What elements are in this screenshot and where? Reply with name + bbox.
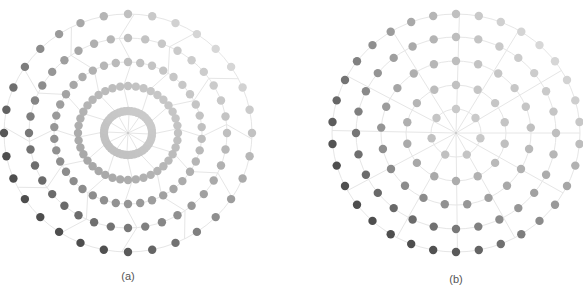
data-dot <box>497 18 505 26</box>
data-dot <box>463 200 471 208</box>
data-dot <box>441 150 449 158</box>
data-dot <box>535 217 543 225</box>
center-point <box>455 132 457 134</box>
data-dot <box>514 54 522 62</box>
data-dot <box>430 35 438 43</box>
data-dot <box>542 87 550 95</box>
data-dot <box>575 118 583 126</box>
data-dot <box>535 41 543 49</box>
data-dot <box>408 42 416 50</box>
data-dot <box>368 41 376 49</box>
data-dot <box>452 225 460 233</box>
data-dot <box>571 96 579 104</box>
data-dot <box>353 201 361 209</box>
spoke-gridline <box>456 70 561 133</box>
data-dot <box>374 189 382 197</box>
data-dot <box>377 123 385 131</box>
data-dot <box>430 172 438 180</box>
spoke-gridline <box>456 30 519 133</box>
data-dot <box>430 60 438 68</box>
data-dot <box>393 84 401 92</box>
data-dot <box>495 42 503 50</box>
data-dot <box>353 57 361 65</box>
data-dot <box>432 114 440 122</box>
data-dot <box>352 129 360 137</box>
data-dot <box>530 69 538 77</box>
data-dot <box>503 182 511 190</box>
data-dot <box>341 182 349 190</box>
data-dot <box>475 12 483 20</box>
data-dot <box>495 215 503 223</box>
data-dot <box>474 60 482 68</box>
data-dot <box>494 69 502 77</box>
data-dot <box>552 129 560 137</box>
data-dot <box>382 103 390 111</box>
data-dot <box>452 177 460 185</box>
data-dot <box>551 57 559 65</box>
data-dot <box>387 230 395 238</box>
data-dot <box>427 134 435 142</box>
data-dot <box>354 107 362 115</box>
data-dot <box>410 69 418 77</box>
data-dot <box>368 217 376 225</box>
data-dot <box>501 140 509 148</box>
radial-dot-grid-b <box>0 0 583 291</box>
data-dot <box>542 171 550 179</box>
spoke-gridline <box>392 31 456 133</box>
data-dot <box>452 57 460 65</box>
data-dot <box>549 107 557 115</box>
data-dot <box>517 165 525 173</box>
data-dot <box>429 12 437 20</box>
data-dot <box>474 35 482 43</box>
data-dot <box>501 118 509 126</box>
data-dot <box>563 76 571 84</box>
data-dot <box>476 134 484 142</box>
data-dot <box>403 118 411 126</box>
spoke-gridline <box>456 133 457 252</box>
data-dot <box>525 145 533 153</box>
spoke-gridline <box>456 14 459 133</box>
data-dot <box>484 194 492 202</box>
data-dot <box>517 230 525 238</box>
data-dot <box>514 204 522 212</box>
caption-a: (a) <box>121 270 134 282</box>
data-dot <box>430 222 438 230</box>
caption-b: (b) <box>449 273 462 285</box>
data-dot <box>333 161 341 169</box>
data-dot <box>510 84 518 92</box>
data-dot <box>387 165 395 173</box>
data-dot <box>408 215 416 223</box>
data-dot <box>413 99 421 107</box>
data-dot <box>471 114 479 122</box>
data-dot <box>549 150 557 158</box>
data-dot <box>441 200 449 208</box>
data-dot <box>517 28 525 36</box>
data-dot <box>575 140 583 148</box>
data-dot <box>429 246 437 254</box>
data-dot <box>354 150 362 158</box>
data-dot <box>328 140 336 148</box>
data-dot <box>407 18 415 26</box>
data-dot <box>452 81 460 89</box>
data-dot <box>362 87 370 95</box>
data-dot <box>374 69 382 77</box>
data-dot <box>563 182 571 190</box>
data-dot <box>390 54 398 62</box>
data-dot <box>463 150 471 158</box>
data-dot <box>387 28 395 36</box>
spoke-gridline <box>332 131 456 133</box>
data-dot <box>497 240 505 248</box>
data-dot <box>527 123 535 131</box>
data-dot <box>390 204 398 212</box>
data-dot <box>341 76 349 84</box>
data-dot <box>474 86 482 94</box>
data-dot <box>452 105 460 113</box>
data-dot <box>419 194 427 202</box>
data-dot <box>430 86 438 94</box>
data-dot <box>413 159 421 167</box>
data-dot <box>571 161 579 169</box>
data-dot <box>474 222 482 230</box>
data-dot <box>452 33 460 41</box>
data-dot <box>403 140 411 148</box>
data-dot <box>491 99 499 107</box>
